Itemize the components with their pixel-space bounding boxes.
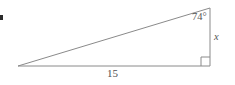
triangle-figure: 74° x 15 [0, 0, 235, 85]
triangle-outline [18, 8, 210, 66]
side-label-x: x [214, 32, 219, 43]
right-angle-marker-icon [201, 57, 210, 66]
side-label-15: 15 [107, 68, 118, 79]
left-edge-artifact [0, 15, 3, 20]
angle-label-74-degrees: 74° [192, 12, 207, 23]
